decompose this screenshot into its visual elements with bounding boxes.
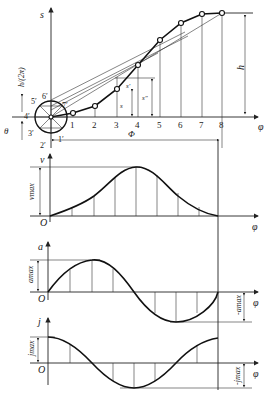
a-axis-label: a xyxy=(38,241,43,252)
phi-axis-label: φ xyxy=(258,121,264,132)
svg-text:7: 7 xyxy=(199,120,204,130)
svg-text:5: 5 xyxy=(157,120,162,130)
velocity-panel: v φ O vmax xyxy=(27,154,258,232)
a-origin-label: O xyxy=(38,293,45,304)
svg-text:4′: 4′ xyxy=(24,112,30,121)
s-prime-label: s′ xyxy=(126,82,131,90)
svg-text:6′: 6′ xyxy=(42,92,48,101)
radius-label: h/(2π) xyxy=(17,67,26,87)
j-axis-label: j xyxy=(36,316,41,327)
svg-text:5′: 5′ xyxy=(31,97,37,106)
jmax-label: jmax xyxy=(27,340,36,357)
svg-text:3: 3 xyxy=(114,120,119,130)
motion-diagram: s φ h s s′ s″ xyxy=(0,0,271,402)
displacement-panel: s φ h s s′ s″ xyxy=(4,8,264,150)
acceleration-curve xyxy=(48,260,218,322)
j-origin-label: O xyxy=(38,364,45,375)
jerk-panel: j φ O jmax -jmax xyxy=(27,316,259,388)
s-axis-label: s xyxy=(40,9,44,20)
neg-amax-label: -amax xyxy=(234,295,243,315)
theta-label: θ xyxy=(4,126,9,136)
amax-label: amax xyxy=(26,265,35,283)
circle-labels: 1′ 2′ 3′ 4′ 5′ 6′ 7′ xyxy=(24,92,68,150)
s-label: s xyxy=(120,102,123,110)
a-phi-label: φ xyxy=(253,297,259,308)
svg-text:1: 1 xyxy=(70,120,75,130)
phi-label: Φ xyxy=(128,129,135,139)
acceleration-panel: a φ O amax -amax xyxy=(26,241,259,322)
svg-text:4: 4 xyxy=(135,120,140,130)
svg-text:8: 8 xyxy=(219,120,224,130)
h-label: h xyxy=(235,65,246,70)
svg-text:3′: 3′ xyxy=(28,129,34,138)
v-phi-label: φ xyxy=(252,221,258,232)
neg-jmax-label: -jmax xyxy=(233,366,242,385)
vmax-label: vmax xyxy=(27,183,36,200)
v-origin-label: O xyxy=(40,217,47,228)
svg-text:2: 2 xyxy=(92,120,97,130)
velocity-curve xyxy=(50,167,218,216)
svg-text:6: 6 xyxy=(178,120,183,130)
svg-text:1′: 1′ xyxy=(58,135,64,144)
s-double-prime-label: s″ xyxy=(142,94,148,102)
svg-text:2′: 2′ xyxy=(40,141,46,150)
svg-text:7′: 7′ xyxy=(62,101,68,110)
jerk-curve xyxy=(48,337,218,388)
j-phi-label: φ xyxy=(253,368,259,379)
v-axis-label: v xyxy=(40,154,45,165)
phi-tick-labels: 1 2 3 4 5 6 7 8 xyxy=(70,120,224,130)
